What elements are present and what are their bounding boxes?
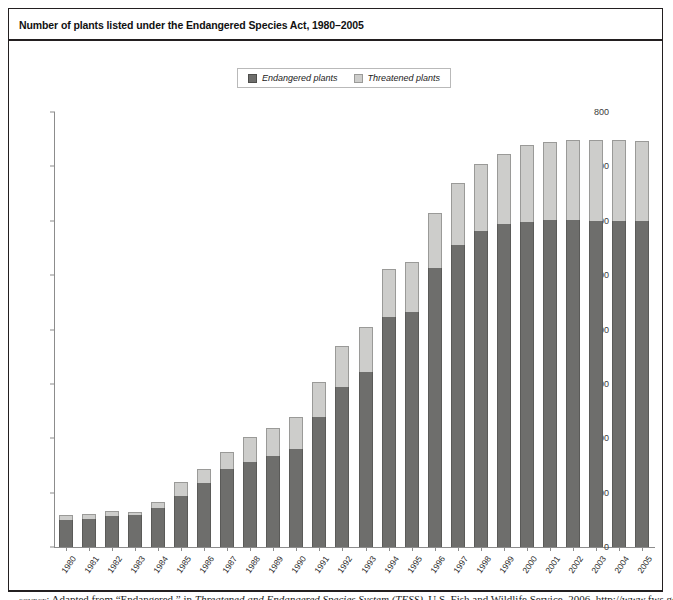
x-axis-tick-mark xyxy=(412,547,413,551)
bar-segment-endangered xyxy=(451,245,465,547)
x-axis-tick-label: 1980 xyxy=(51,554,78,586)
x-axis-tick-label: 1984 xyxy=(143,554,170,586)
x-axis-tick-label: 2005 xyxy=(628,554,655,586)
bar-segment-endangered xyxy=(635,221,649,547)
bar-segment-endangered xyxy=(105,516,119,547)
bar-segment-endangered xyxy=(266,456,280,547)
bar-1984 xyxy=(151,502,165,547)
x-axis-tick-mark xyxy=(504,547,505,551)
bar-segment-threatened xyxy=(451,183,465,246)
x-axis-tick-mark xyxy=(250,547,251,551)
x-axis-tick-mark xyxy=(527,547,528,551)
bar-1981 xyxy=(82,514,96,547)
bar-segment-endangered xyxy=(220,469,234,547)
bar-segment-threatened xyxy=(520,145,534,222)
bar-2003 xyxy=(589,140,603,547)
x-axis-tick-mark xyxy=(342,547,343,551)
legend-label-endangered: Endangered plants xyxy=(262,73,338,83)
bar-segment-endangered xyxy=(566,220,580,547)
bar-1989 xyxy=(266,428,280,547)
x-axis-tick-mark xyxy=(619,547,620,551)
x-axis-tick-label: 1983 xyxy=(120,554,147,586)
bar-segment-endangered xyxy=(59,520,73,547)
bar-1998 xyxy=(474,164,488,547)
x-axis-tick-label: 1993 xyxy=(351,554,378,586)
x-axis-tick-label: 2002 xyxy=(559,554,586,586)
source-title-italic: Threatened and Endangered Species System… xyxy=(195,593,423,600)
bar-segment-threatened xyxy=(289,417,303,450)
bar-segment-threatened xyxy=(174,482,188,496)
bar-segment-endangered xyxy=(312,417,326,548)
bar-segment-threatened xyxy=(220,452,234,469)
bar-segment-endangered xyxy=(335,387,349,547)
bar-1986 xyxy=(197,469,211,547)
x-axis-tick-label: 1999 xyxy=(490,554,517,586)
bar-segment-threatened xyxy=(312,382,326,417)
chart-legend: Endangered plants Threatened plants xyxy=(237,68,451,88)
bar-1991 xyxy=(312,382,326,547)
x-axis-tick-label: 1997 xyxy=(443,554,470,586)
bar-1988 xyxy=(243,437,257,547)
bar-segment-threatened xyxy=(474,164,488,231)
figure-panel: Number of plants listed under the Endang… xyxy=(8,8,663,592)
bar-segment-threatened xyxy=(497,154,511,224)
bar-segment-threatened xyxy=(266,428,280,455)
bar-segment-endangered xyxy=(128,515,142,547)
bar-segment-endangered xyxy=(174,496,188,547)
bar-segment-threatened xyxy=(543,142,557,220)
x-axis-tick-mark xyxy=(435,547,436,551)
x-axis-tick-mark xyxy=(89,547,90,551)
x-axis-tick-label: 1996 xyxy=(420,554,447,586)
bar-2004 xyxy=(612,140,626,547)
legend-swatch-endangered xyxy=(248,74,257,83)
plot-area xyxy=(54,112,654,547)
legend-item-endangered: Endangered plants xyxy=(248,73,338,83)
bar-1987 xyxy=(220,452,234,547)
bar-segment-endangered xyxy=(382,317,396,547)
bar-1980 xyxy=(59,515,73,547)
x-axis-tick-mark xyxy=(366,547,367,551)
x-axis-tick-label: 2004 xyxy=(605,554,632,586)
bar-segment-threatened xyxy=(359,327,373,372)
bar-2000 xyxy=(520,145,534,547)
legend-label-threatened: Threatened plants xyxy=(368,73,441,83)
x-axis-tick-label: 2001 xyxy=(536,554,563,586)
bar-1996 xyxy=(428,213,442,547)
x-axis-tick-label: 1986 xyxy=(190,554,217,586)
x-axis-tick-label: 1989 xyxy=(259,554,286,586)
bar-1994 xyxy=(382,269,396,547)
bar-1983 xyxy=(128,512,142,547)
bar-segment-endangered xyxy=(243,462,257,547)
bar-segment-threatened xyxy=(635,141,649,221)
bar-segment-threatened xyxy=(428,213,442,268)
bar-segment-threatened xyxy=(566,140,580,220)
bar-1997 xyxy=(451,183,465,547)
x-axis-tick-mark xyxy=(573,547,574,551)
bar-segment-threatened xyxy=(589,140,603,221)
bar-segment-threatened xyxy=(612,140,626,221)
bar-segment-endangered xyxy=(428,268,442,547)
x-axis-tick-mark xyxy=(389,547,390,551)
bar-segment-endangered xyxy=(197,483,211,547)
bar-1990 xyxy=(289,417,303,548)
bar-1982 xyxy=(105,511,119,547)
x-axis-tick-mark xyxy=(642,547,643,551)
x-axis-tick-mark xyxy=(481,547,482,551)
bar-segment-endangered xyxy=(589,221,603,547)
bar-1995 xyxy=(405,262,419,547)
x-axis-tick-label: 1982 xyxy=(97,554,124,586)
x-axis-tick-label: 1995 xyxy=(397,554,424,586)
bar-segment-endangered xyxy=(289,449,303,547)
x-axis-tick-mark xyxy=(66,547,67,551)
bar-segment-threatened xyxy=(382,269,396,317)
x-axis-tick-mark xyxy=(204,547,205,551)
bar-1993 xyxy=(359,327,373,547)
x-axis-tick-mark xyxy=(112,547,113,551)
bar-segment-endangered xyxy=(520,222,534,547)
x-axis-tick-label: 1998 xyxy=(467,554,494,586)
bar-segment-endangered xyxy=(474,231,488,547)
source-prefix: source: xyxy=(19,594,49,600)
source-divider xyxy=(9,590,662,592)
bar-segment-endangered xyxy=(151,508,165,547)
x-axis-tick-label: 2003 xyxy=(582,554,609,586)
